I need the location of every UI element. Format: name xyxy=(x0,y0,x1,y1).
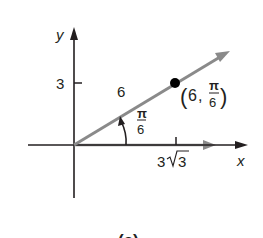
figure-caption: (a) xyxy=(118,231,139,238)
angle-label-denominator: 6 xyxy=(137,122,144,137)
point-theta-denominator: 6 xyxy=(209,95,216,110)
polar-coordinate-diagram: y 3 x 3 3 6 π 6 ( 6 , π 6 ) (a) xyxy=(0,0,263,238)
x-tick-label-radicand: 3 xyxy=(178,153,186,170)
y-axis-arrow-icon xyxy=(70,27,78,40)
angle-label-numerator: π xyxy=(137,106,147,121)
point-separator: , xyxy=(198,87,202,104)
y-tick-label: 3 xyxy=(56,75,64,92)
point-theta-numerator: π xyxy=(209,78,219,93)
point-close-paren: ) xyxy=(220,84,227,109)
x-axis-label: x xyxy=(236,152,245,169)
x-tick-label-coef: 3 xyxy=(157,153,165,170)
point-marker xyxy=(170,78,180,88)
ray-length-label: 6 xyxy=(117,83,125,100)
x-axis-arrow-icon xyxy=(235,141,248,149)
y-axis-label: y xyxy=(55,26,65,43)
point-open-paren: ( xyxy=(180,84,188,109)
point-r: 6 xyxy=(188,87,197,104)
